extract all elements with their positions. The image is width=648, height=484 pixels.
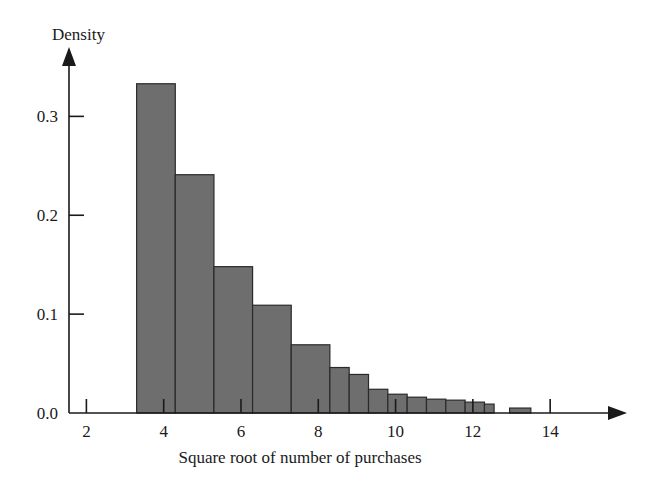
x-tick-label: 2 (82, 422, 91, 441)
y-tick-label: 0.0 (37, 404, 58, 423)
x-tick-label: 12 (464, 422, 481, 441)
histogram-bar (330, 368, 349, 413)
histogram-bar (175, 175, 214, 413)
histogram-bar (369, 389, 388, 413)
histogram-bar (291, 345, 330, 413)
histogram-figure: 2468101214 0.00.10.20.3 Density Square r… (0, 0, 648, 484)
histogram-bar (349, 374, 368, 413)
y-axis-title: Density (52, 25, 105, 44)
x-axis-title: Square root of number of purchases (178, 448, 421, 467)
histogram-bar (137, 84, 176, 413)
histogram-bar (465, 402, 484, 413)
histogram-bar (253, 305, 292, 413)
x-tick-label: 14 (542, 422, 560, 441)
y-tick-label: 0.2 (37, 206, 58, 225)
histogram-bar (388, 394, 407, 413)
histogram-bar (407, 397, 426, 413)
histogram-bar (484, 404, 494, 413)
histogram-bar (214, 267, 253, 413)
x-tick-label: 6 (237, 422, 246, 441)
y-tick-label: 0.1 (37, 305, 58, 324)
histogram-bar (426, 399, 445, 413)
histogram-bar (446, 400, 465, 413)
y-tick-label: 0.3 (37, 107, 58, 126)
x-tick-label: 4 (159, 422, 168, 441)
x-tick-label: 10 (387, 422, 404, 441)
x-tick-label: 8 (314, 422, 323, 441)
